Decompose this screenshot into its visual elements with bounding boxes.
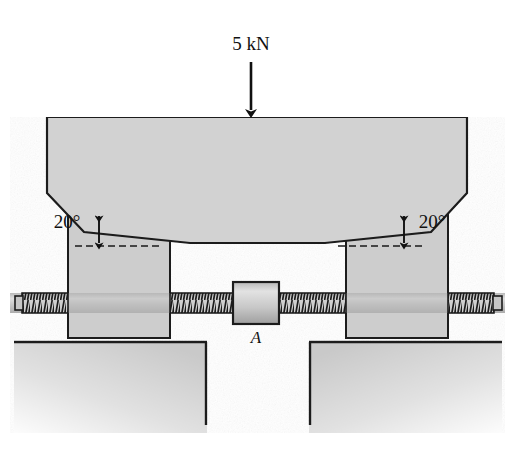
figure-root: 5 kN 20° 20° A bbox=[0, 0, 516, 463]
load-label: 5 kN bbox=[232, 33, 270, 54]
thread-left-inner bbox=[170, 293, 233, 313]
right-ground-support bbox=[309, 341, 502, 433]
thread-far-right bbox=[448, 293, 502, 313]
left-ground-support bbox=[14, 341, 207, 433]
angle-label-right: 20° bbox=[419, 211, 446, 232]
point-a-label: A bbox=[250, 328, 262, 347]
thread-right-inner bbox=[279, 293, 346, 313]
collar-a bbox=[233, 282, 279, 324]
angle-label-left: 20° bbox=[54, 211, 81, 232]
thread-far-left bbox=[15, 293, 68, 313]
load-annotation: 5 kN bbox=[232, 33, 270, 110]
wedge-screw-jack-figure: 5 kN 20° 20° A bbox=[0, 0, 516, 463]
